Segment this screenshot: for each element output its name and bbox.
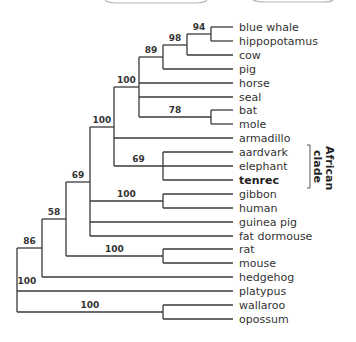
taxon-label-human: human [239,202,277,215]
taxon-label-mole: mole [239,118,267,131]
taxon-label-bat: bat [239,104,258,117]
taxon-label-rat: rat [239,243,255,256]
taxon-label-cow: cow [239,49,261,62]
taxon-label-seal: seal [239,91,261,104]
support-value-n_86: 86 [23,236,36,246]
taxon-label-pig: pig [239,63,256,76]
clade-bracket [307,145,310,188]
taxon-label-guinea-pig: guinea pig [239,216,297,229]
support-value-n_78: 78 [169,105,182,115]
taxon-label-fat-dormouse: fat dormouse [239,230,313,243]
support-value-n_69a: 69 [72,170,85,180]
clade-label-line-2: clade [311,150,324,183]
taxon-label-armadillo: armadillo [239,132,291,145]
taxon-label-aardvark: aardvark [239,146,289,159]
support-value-n_58: 58 [48,207,61,217]
cropped-box-edge-right [253,0,333,2]
taxon-label-blue-whale: blue whale [239,21,299,34]
cropped-box-edge-left [105,0,207,3]
taxon-label-platypus: platypus [239,285,287,298]
support-value-n_primate: 100 [117,189,136,199]
support-value-n_98: 98 [169,33,182,43]
taxon-label-tenrec: tenrec [239,174,279,187]
taxon-label-hedgehog: hedgehog [239,271,294,284]
support-value-n_rodent: 100 [105,244,124,254]
support-value-n_89: 89 [145,45,158,55]
support-value-root: 100 [18,276,37,286]
african-clade-annotation: African clade [307,145,336,190]
taxon-label-elephant: elephant [239,160,288,173]
tree-branches [17,27,233,319]
taxon-label-hippopotamus: hippopotamus [239,35,318,48]
support-value-n_100a: 100 [93,115,112,125]
taxon-labels: blue whalehippopotamuscowpighorsesealbat… [239,21,318,326]
cropped-top-shapes [105,0,333,3]
support-value-n_laur: 100 [117,75,136,85]
taxon-label-opossum: opossum [239,313,289,326]
support-value-n_african: 69 [132,154,145,164]
phylogenetic-tree: 8610058691001001001006989789894100 blue … [0,0,356,342]
taxon-label-mouse: mouse [239,257,276,270]
support-value-n_marsupial: 100 [81,300,100,310]
taxon-label-gibbon: gibbon [239,188,277,201]
taxon-label-horse: horse [239,77,270,90]
support-value-n_94: 94 [193,22,206,32]
taxon-label-wallaroo: wallaroo [239,299,286,312]
